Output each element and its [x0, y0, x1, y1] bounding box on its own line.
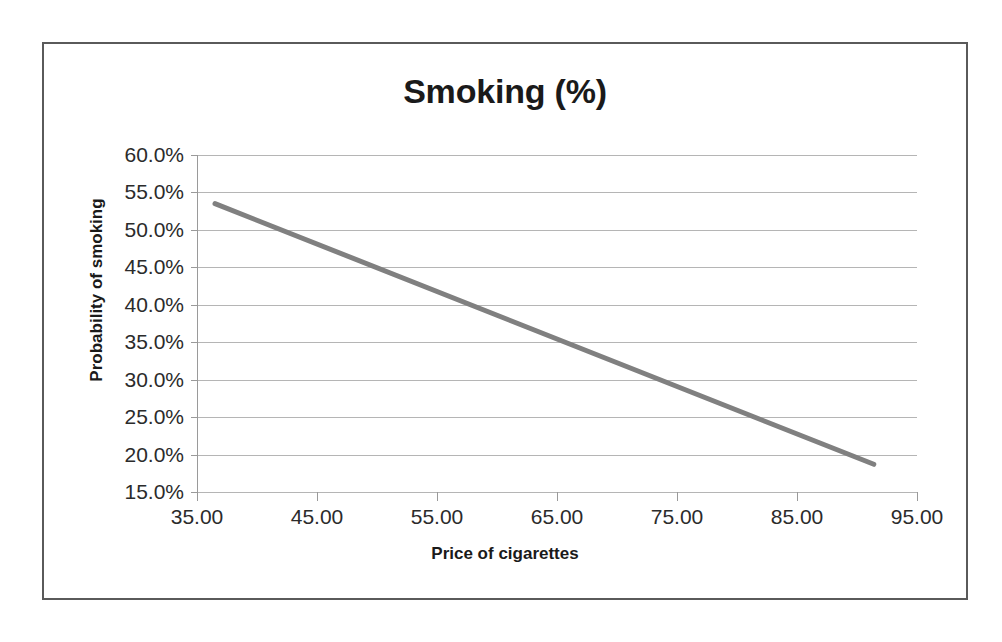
y-tick-label: 30.0% [124, 368, 184, 392]
x-axis-title: Price of cigarettes [44, 544, 966, 564]
y-tick-label: 55.0% [124, 180, 184, 204]
y-tick-label: 50.0% [124, 218, 184, 242]
x-tick-mark [557, 492, 558, 501]
x-tick-label: 85.00 [771, 505, 824, 529]
y-tick-label: 20.0% [124, 443, 184, 467]
x-tick-label: 95.00 [891, 505, 944, 529]
chart-title: Smoking (%) [44, 72, 966, 111]
series-line-probability-of-smoking [215, 204, 874, 465]
x-tick-mark [437, 492, 438, 501]
y-tick-label: 25.0% [124, 405, 184, 429]
y-tick-label: 45.0% [124, 255, 184, 279]
x-tick-mark [317, 492, 318, 501]
y-tick-label: 15.0% [124, 480, 184, 504]
x-tick-label: 45.00 [291, 505, 344, 529]
y-tick-label: 40.0% [124, 293, 184, 317]
x-tick-mark [677, 492, 678, 501]
y-tick-label: 35.0% [124, 330, 184, 354]
plot-area: 15.0%20.0%25.0%30.0%35.0%40.0%45.0%50.0%… [197, 155, 917, 492]
x-tick-mark [917, 492, 918, 501]
x-tick-mark [197, 492, 198, 501]
x-tick-label: 55.00 [411, 505, 464, 529]
series-line-chart [197, 155, 917, 492]
chart-frame: Smoking (%) Probability of smoking Price… [42, 42, 968, 600]
x-tick-label: 75.00 [651, 505, 704, 529]
x-tick-mark [797, 492, 798, 501]
y-tick-label: 60.0% [124, 143, 184, 167]
x-tick-label: 35.00 [171, 505, 224, 529]
x-tick-label: 65.00 [531, 505, 584, 529]
y-axis-title: Probability of smoking [87, 175, 107, 405]
